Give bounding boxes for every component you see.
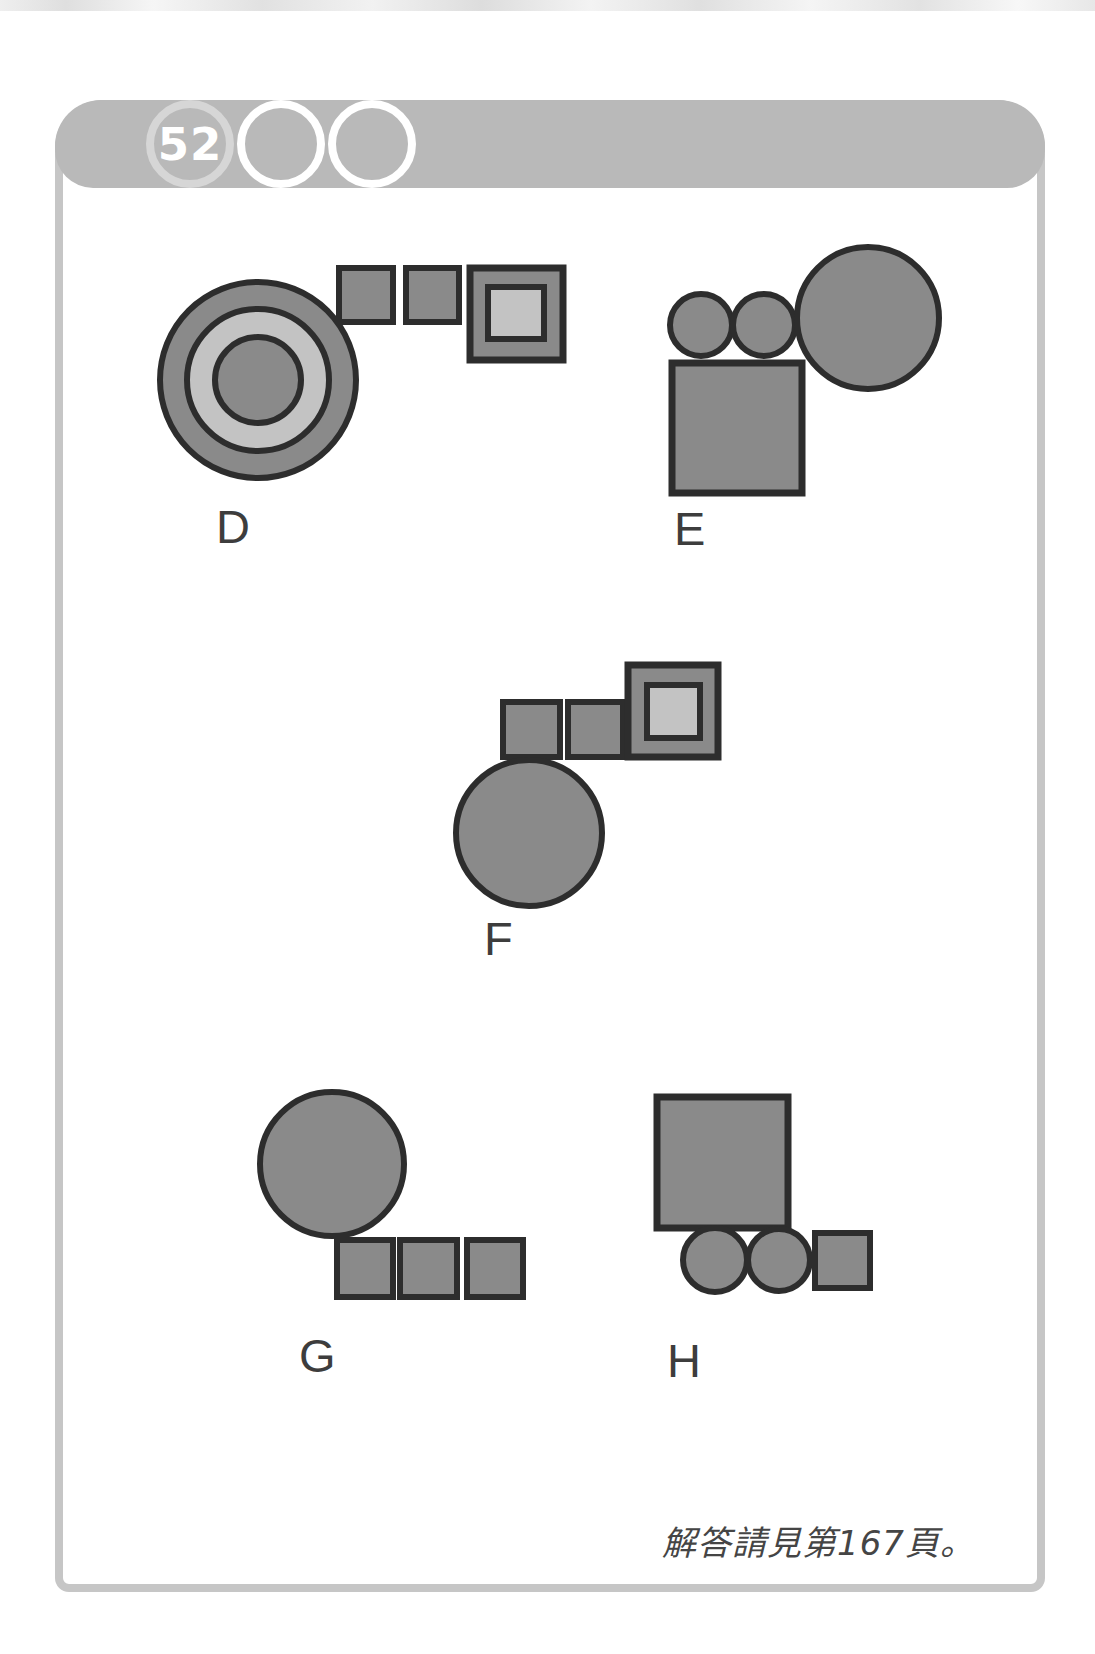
figure-group-G: G (260, 1092, 523, 1382)
figure-group-H: H (657, 1097, 870, 1387)
square-shape (467, 1240, 523, 1297)
group-label-H: H (667, 1334, 701, 1387)
group-label-D: D (216, 500, 250, 553)
square-shape (657, 1097, 788, 1228)
book-page: 52 DEFGH 解答請見第167頁。 (0, 0, 1095, 1654)
circle-shape (260, 1092, 404, 1236)
group-label-E: E (674, 502, 705, 555)
figure-group-F: F (456, 665, 718, 965)
circle-shape (748, 1229, 810, 1291)
square-shape (400, 1240, 457, 1297)
circle-shape (683, 1228, 747, 1292)
square-shape (488, 287, 544, 339)
square-shape (815, 1233, 870, 1288)
square-shape (337, 1240, 393, 1297)
square-shape (672, 363, 802, 493)
answer-page-note: 解答請見第167頁。 (662, 1516, 1002, 1565)
circle-shape (456, 760, 602, 906)
figure-group-E: E (670, 247, 939, 555)
figure-group-D: D (160, 268, 563, 553)
group-label-F: F (484, 912, 513, 965)
square-shape (568, 702, 623, 757)
square-shape (406, 268, 459, 322)
circle-shape (670, 294, 732, 356)
puzzle-figures-canvas: DEFGH (0, 0, 1095, 1654)
square-shape (647, 685, 700, 738)
circle-shape (797, 247, 939, 389)
group-label-G: G (299, 1329, 336, 1382)
circle-shape (733, 294, 795, 356)
square-shape (339, 268, 393, 322)
circle-shape (215, 337, 301, 423)
square-shape (503, 702, 560, 757)
